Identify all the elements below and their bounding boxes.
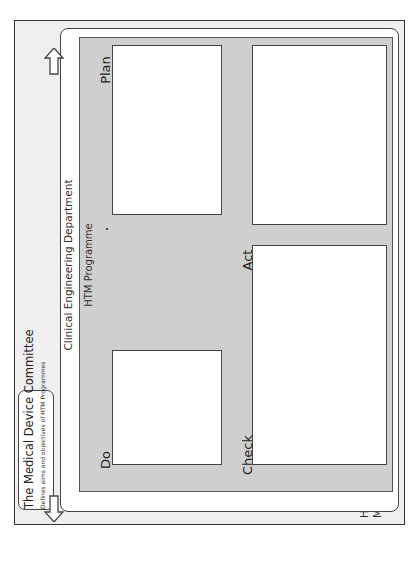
do-title: Do bbox=[98, 430, 113, 490]
committee-box: The Medical Device Committee Defines aim… bbox=[18, 390, 54, 510]
check-box bbox=[252, 245, 387, 465]
department-title: Clinical Engineering Department bbox=[62, 165, 74, 365]
do-box bbox=[112, 350, 222, 465]
plan-box-main bbox=[112, 45, 222, 215]
arrow-right-icon bbox=[44, 48, 64, 76]
plan-box bbox=[106, 228, 108, 230]
act-box bbox=[252, 45, 387, 225]
htm-diagram: Healthcare Technology Management System … bbox=[0, 0, 420, 570]
arrow-left-icon bbox=[44, 494, 64, 522]
committee-title: The Medical Device Committee bbox=[22, 391, 36, 509]
committee-subtitle: Defines aims and objectives of HTM Progr… bbox=[39, 391, 46, 509]
plan-title: Plan bbox=[98, 40, 113, 100]
htm-programme-title: HTM Programme bbox=[83, 190, 94, 340]
